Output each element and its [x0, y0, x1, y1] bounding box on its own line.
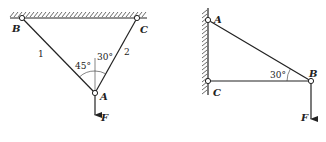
label-B-right: B: [308, 68, 317, 79]
label-angle-45: 45°: [75, 61, 91, 71]
label-member-1: 1: [38, 49, 44, 59]
label-F-left: F: [100, 112, 109, 123]
right-figure: A B C F 30°: [202, 8, 317, 123]
member-1: [22, 18, 95, 93]
pin-C-right: [205, 78, 210, 83]
label-A-right: A: [213, 14, 222, 25]
ceiling-support: [10, 12, 147, 18]
angle-arc-30-right: [287, 69, 290, 81]
pin-A-left: [92, 90, 97, 95]
label-A-left: A: [99, 91, 108, 102]
angle-arc-30: [95, 71, 106, 74]
angle-arc-45: [79, 71, 95, 77]
pin-B-left: [19, 15, 24, 20]
label-angle-30-left: 30°: [97, 52, 113, 62]
pin-B-right: [308, 78, 313, 83]
diagram-canvas: B C A F 1 2 45° 30°: [0, 0, 326, 142]
label-C-right: C: [213, 87, 221, 98]
pin-A-right: [205, 17, 210, 22]
member-AB: [208, 20, 311, 81]
label-F-right: F: [300, 112, 309, 123]
label-B-left: B: [11, 23, 20, 34]
label-angle-30-right: 30°: [270, 70, 286, 80]
label-member-2: 2: [124, 47, 130, 57]
label-C-left: C: [140, 24, 148, 35]
pin-C-left: [134, 15, 139, 20]
left-figure: B C A F 1 2 45° 30°: [10, 12, 148, 123]
